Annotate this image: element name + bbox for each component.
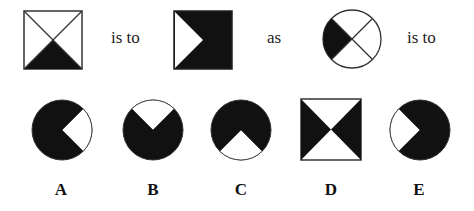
option-e-label[interactable]: E: [404, 180, 434, 200]
stem-figure-2: [173, 10, 235, 72]
option-e-figure[interactable]: [389, 99, 451, 161]
connector-as: as: [267, 28, 281, 48]
connector-is-to-1: is to: [111, 28, 140, 48]
option-a-figure[interactable]: [31, 99, 93, 161]
stem-figure-3: [321, 7, 383, 71]
option-b-label[interactable]: B: [138, 180, 168, 200]
option-d-figure[interactable]: [300, 98, 362, 162]
option-b-figure[interactable]: [122, 99, 184, 161]
connector-is-to-2: is to: [407, 28, 436, 48]
option-c-label[interactable]: C: [226, 180, 256, 200]
option-a-label[interactable]: A: [46, 180, 76, 200]
option-d-label[interactable]: D: [316, 180, 346, 200]
option-c-figure[interactable]: [210, 99, 272, 161]
stem-figure-1: [23, 10, 85, 72]
